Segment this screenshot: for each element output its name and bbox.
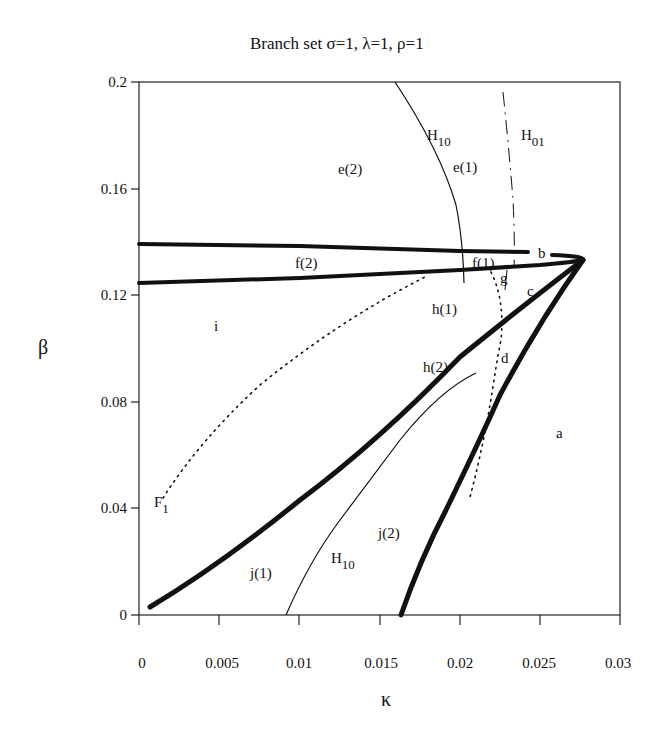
region-label-g: g: [500, 270, 508, 286]
y-tick-label: 0.08: [101, 394, 127, 410]
region-label-f1: f(1): [472, 255, 495, 272]
y-tick-label: 0.12: [101, 287, 127, 303]
H10-lower-curve: [286, 373, 476, 615]
thick-branches: [139, 244, 583, 615]
y-tick-label: 0.16: [101, 181, 128, 197]
x-axis: [139, 615, 620, 625]
g-d-boundary-curve: [470, 272, 502, 497]
y-tick-label: 0: [120, 607, 128, 623]
x-tick-label: 0.01: [286, 655, 312, 671]
region-label-f2: f(2): [295, 255, 318, 272]
region-label-i: i: [214, 318, 218, 334]
region-label-e1: e(1): [453, 159, 477, 176]
y-tick-labels: 0 0.04 0.08 0.12 0.16 0.2: [101, 74, 128, 623]
x-tick-label: 0.02: [447, 655, 473, 671]
region-label-a: a: [556, 425, 563, 441]
diagonal-branch-curve: [150, 260, 583, 607]
region-label-h2: h(2): [423, 359, 448, 376]
F1-curve: [163, 277, 425, 498]
region-label-c: c: [527, 283, 534, 299]
x-tick-labels: 0 0.005 0.01 0.015 0.02 0.025 0.03: [138, 655, 631, 671]
lower-branch-curve: [139, 260, 583, 283]
H01-curve: [503, 92, 514, 268]
y-axis: [131, 82, 139, 615]
region-label-j1: j(1): [249, 565, 272, 582]
region-label-h1: h(1): [432, 301, 457, 318]
region-label-b: b: [538, 245, 546, 261]
x-tick-label: 0.025: [522, 655, 556, 671]
H10-label: H10: [427, 127, 451, 149]
H01-label: H01: [521, 127, 545, 149]
y-tick-label: 0.04: [101, 500, 128, 516]
region-labels: e(2) e(1) H10 H01 b f(2) f(1) g c h(1) i…: [154, 127, 563, 582]
x-tick-label: 0.03: [605, 655, 631, 671]
x-tick-label: 0.005: [205, 655, 239, 671]
upper-branch-curve: [139, 244, 528, 252]
x-tick-label: 0: [138, 655, 146, 671]
x-tick-label: 0.015: [364, 655, 398, 671]
H10-lower-label: H10: [331, 550, 355, 572]
region-label-j2: j(2): [377, 525, 400, 542]
H10-upper-curve: [395, 82, 464, 283]
bifurcation-chart: 0 0.04 0.08 0.12 0.16 0.2 0 0.005 0.01 0…: [0, 0, 667, 740]
x-axis-label: κ: [381, 688, 391, 710]
region-label-d: d: [501, 350, 509, 366]
y-tick-label: 0.2: [108, 74, 127, 90]
F1-label: F1: [154, 494, 169, 516]
region-label-e2: e(2): [338, 161, 362, 178]
y-axis-label: β: [38, 336, 48, 359]
